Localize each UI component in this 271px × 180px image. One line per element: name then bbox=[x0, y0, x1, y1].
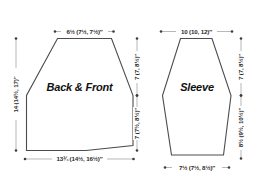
back-and-front-bottom-width-text: 13¾ (14½, 16½)″ bbox=[56, 155, 102, 162]
sleeve-right-upper-text: 7 (7, 8½)″ bbox=[237, 54, 244, 80]
sleeve-top-width-text: 10 (10, 12)″ bbox=[181, 28, 212, 35]
sleeve-bottom-width-dimension: 7½ (7½, 8½)″ bbox=[164, 164, 231, 172]
sleeve-label: Sleeve bbox=[180, 81, 214, 93]
schematic-canvas: Back & Front 6½ (7½, 7½)″ 13¾ (14½, 16½)… bbox=[0, 0, 271, 180]
sleeve-outline bbox=[163, 39, 232, 156]
sleeve-bottom-width-text: 7½ (7½, 8½)″ bbox=[179, 164, 215, 171]
schematic-diagram: Back & Front 6½ (7½, 7½)″ 13¾ (14½, 16½)… bbox=[0, 0, 271, 180]
back-and-front-bottom-width-dimension: 13¾ (14½, 16½)″ bbox=[24, 155, 135, 163]
sleeve-right-lower-text: 8½ (9½, 10½)″ bbox=[237, 108, 244, 148]
back-and-front-left-height-dimension: 14 (14½, 17)″ bbox=[12, 37, 20, 152]
sleeve-right-upper-dimension: 7 (7, 8½)″ bbox=[237, 37, 245, 97]
back-and-front-left-height-text: 14 (14½, 17)″ bbox=[12, 76, 19, 112]
piece-back-and-front: Back & Front 6½ (7½, 7½)″ 13¾ (14½, 16½)… bbox=[12, 28, 141, 164]
sleeve-right-lower-dimension: 8½ (9½, 10½)″ bbox=[237, 94, 245, 160]
sleeve-top-width-dimension: 10 (10, 12)″ bbox=[160, 28, 234, 36]
back-and-front-label: Back & Front bbox=[46, 81, 114, 93]
back-and-front-right-upper-text: 7 (7, 8½)″ bbox=[133, 54, 140, 80]
piece-sleeve: Sleeve 10 (10, 12)″ 7½ (7½, 8½)″ bbox=[160, 28, 245, 172]
back-and-front-top-width-dimension: 6½ (7½, 7½)″ bbox=[54, 28, 115, 36]
back-and-front-right-upper-dimension: 7 (7, 8½)″ bbox=[133, 37, 141, 97]
back-and-front-outline bbox=[27, 39, 134, 151]
back-and-front-right-lower-text: 7 (7½, 8½)″ bbox=[133, 108, 140, 139]
back-and-front-top-width-text: 6½ (7½, 7½)″ bbox=[66, 28, 102, 35]
back-and-front-right-lower-dimension: 7 (7½, 8½)″ bbox=[133, 94, 141, 152]
